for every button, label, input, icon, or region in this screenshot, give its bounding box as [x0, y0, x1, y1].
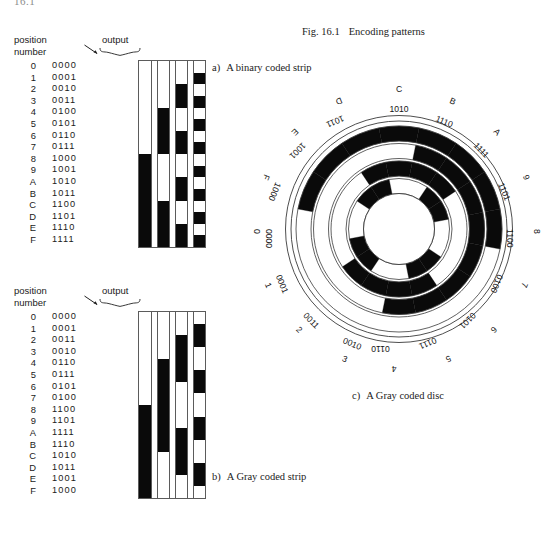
row-code: 1011 — [36, 188, 108, 200]
track-cell — [194, 475, 205, 487]
track-cell — [158, 61, 169, 73]
table-row: 50101 — [14, 118, 108, 130]
track-cell — [158, 142, 169, 154]
track-cell — [139, 131, 151, 143]
track-cell — [194, 393, 205, 405]
track-cell — [176, 154, 187, 166]
row-index: E — [14, 473, 36, 485]
track-cell — [158, 131, 169, 143]
row-code: 0100 — [36, 392, 108, 404]
table-row: 91001 — [14, 164, 108, 176]
track-cell — [176, 335, 187, 347]
track-cell — [176, 359, 187, 371]
code-track — [175, 312, 187, 498]
binary-output-label: output — [102, 34, 128, 46]
track-cell — [176, 324, 187, 336]
code-track — [157, 312, 169, 498]
figure-caption: Fig. 16.1Encoding patterns — [302, 26, 425, 37]
track-cell — [176, 96, 187, 108]
row-index: B — [14, 188, 36, 200]
track-cell — [158, 119, 169, 131]
track-cell — [158, 335, 169, 347]
code-track — [193, 312, 205, 498]
track-cell — [194, 312, 205, 324]
track-cell — [176, 463, 187, 475]
table-row: 20011 — [14, 334, 108, 346]
track-cell — [139, 382, 151, 394]
table-row: F1000 — [14, 485, 108, 497]
table-row: 91101 — [14, 415, 108, 427]
binary-position-label: position number — [14, 34, 47, 57]
gray-disc-graphic — [268, 98, 530, 360]
track-cell — [139, 73, 151, 85]
row-index: 0 — [14, 60, 36, 72]
row-code: 1001 — [36, 164, 108, 176]
track-cell — [158, 154, 169, 166]
track-cell — [139, 212, 151, 224]
track-cell — [194, 131, 205, 143]
table-row: A1111 — [14, 427, 108, 439]
track-cell — [176, 347, 187, 359]
track-cell — [139, 370, 151, 382]
track-cell — [194, 84, 205, 96]
row-code: 1101 — [36, 415, 108, 427]
row-code: 1011 — [36, 462, 108, 474]
row-code: 0111 — [36, 369, 108, 381]
track-cell — [158, 212, 169, 224]
table-row: F1111 — [14, 234, 108, 246]
gray-strip-caption-text: A Gray coded strip — [227, 471, 307, 482]
track-cell — [176, 108, 187, 120]
track-cell — [158, 370, 169, 382]
row-code: 1110 — [36, 222, 108, 234]
table-row: 40110 — [14, 357, 108, 369]
track-cell — [139, 142, 151, 154]
track-cell — [158, 177, 169, 189]
track-cell — [158, 452, 169, 464]
row-index: F — [14, 234, 36, 246]
track-cell — [158, 312, 169, 324]
track-cell — [158, 417, 169, 429]
row-index: A — [14, 427, 36, 439]
running-head: 16.1 — [14, 0, 35, 7]
track-cell — [176, 119, 187, 131]
track-cell — [139, 324, 151, 336]
disc-sector-index: 0 — [252, 229, 262, 234]
track-cell — [176, 452, 187, 464]
row-index: 1 — [14, 323, 36, 335]
output-brace-icon — [99, 298, 141, 307]
track-cell — [176, 84, 187, 96]
table-row: 30011 — [14, 95, 108, 107]
disc-sector-index: C — [396, 84, 402, 94]
table-row: C1100 — [14, 199, 108, 211]
gray-disc-caption-text: A Gray coded disc — [366, 390, 444, 401]
position-arrow-icon — [84, 295, 100, 307]
track-cell — [194, 370, 205, 382]
track-cell — [139, 201, 151, 213]
table-row: 00000 — [14, 60, 108, 72]
row-index: 8 — [14, 404, 36, 416]
row-code: 0001 — [36, 72, 108, 84]
table-row: E1001 — [14, 473, 108, 485]
track-cell — [194, 154, 205, 166]
gray-disc-caption: c)A Gray coded disc — [352, 390, 444, 401]
row-index: 0 — [14, 311, 36, 323]
table-row: E1110 — [14, 222, 108, 234]
table-row: 81100 — [14, 404, 108, 416]
row-index: 6 — [14, 130, 36, 142]
row-code: 0011 — [36, 95, 108, 107]
track-cell — [176, 428, 187, 440]
disc-track-segment — [386, 161, 413, 177]
track-cell — [158, 382, 169, 394]
disc-track-segment — [485, 209, 502, 249]
track-cell — [176, 224, 187, 236]
track-cell — [158, 73, 169, 85]
gray-disc-caption-label: c) — [352, 390, 360, 401]
track-cell — [139, 189, 151, 201]
binary-strip-rows: 0000010001200103001140100501016011070111… — [14, 60, 108, 246]
row-index: F — [14, 485, 36, 497]
position-arrow-icon — [84, 44, 100, 56]
row-index: D — [14, 211, 36, 223]
track-cell — [194, 166, 205, 178]
table-row: A1010 — [14, 176, 108, 188]
track-cell — [194, 428, 205, 440]
